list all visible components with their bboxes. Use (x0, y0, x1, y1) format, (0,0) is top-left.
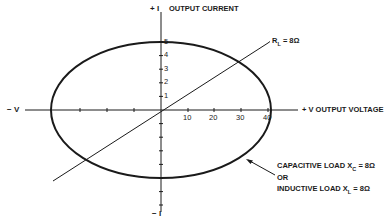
ellipse-annotation-leader (248, 160, 275, 175)
xl-subscript: L (348, 189, 351, 195)
xl-value: = 8Ω (353, 184, 370, 193)
inductive-text: INDUCTIVE LOAD X (277, 184, 348, 193)
y-top-label: + I (150, 5, 159, 13)
x-tick-label: 10 (183, 114, 191, 122)
y-bottom-label: − I (152, 210, 161, 218)
y-axis-title: OUTPUT CURRENT (169, 5, 239, 13)
or-label: OR (277, 174, 288, 182)
y-tick-label: 5 (164, 38, 168, 46)
x-left-label: − V (7, 106, 19, 114)
y-tick-label: 1 (164, 92, 168, 100)
xc-subscript: C (352, 166, 356, 172)
capacitive-text: CAPACITIVE LOAD X (277, 161, 352, 170)
arrowhead-icon (246, 159, 253, 164)
y-tick-label: 3 (164, 65, 168, 73)
y-tick-label: 4 (164, 51, 168, 59)
x-tick-label: 30 (236, 114, 244, 122)
x-axis-title: OUTPUT VOLTAGE (316, 105, 384, 114)
x-right-label: + V OUTPUT VOLTAGE (302, 106, 384, 114)
resistive-load-label: RL = 8Ω (272, 37, 300, 47)
inductive-load-label: INDUCTIVE LOAD XL = 8Ω (277, 185, 370, 195)
capacitive-load-label: CAPACITIVE LOAD XC = 8Ω (277, 162, 375, 172)
rl-value: = 8Ω (283, 36, 300, 45)
rl-subscript: L (277, 41, 280, 47)
x-right-sign: + V (302, 105, 313, 114)
y-tick-label: 2 (164, 78, 168, 86)
xc-value: = 8Ω (358, 161, 375, 170)
x-tick-label: 20 (209, 114, 217, 122)
x-tick-label: 40 (263, 114, 271, 122)
resistive-label-leader (268, 42, 270, 44)
